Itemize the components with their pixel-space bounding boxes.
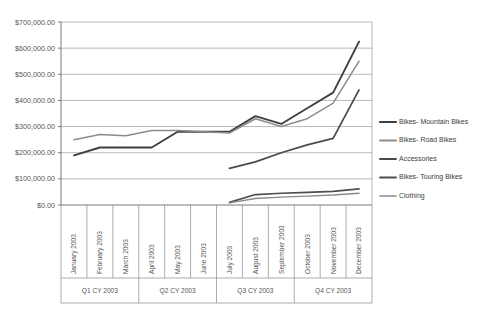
line-chart: $0.00$100,000.00$200,000.00$300,000.00$4… — [0, 0, 488, 313]
legend-label: Bikes- Touring Bikes — [399, 173, 463, 181]
x-axis-tick-label: July 2003 — [226, 245, 234, 274]
x-axis-tick-label: December 2003 — [355, 227, 362, 274]
series-line-bikes-mountain-bikes — [74, 42, 359, 156]
legend-label: Accessories — [399, 155, 437, 162]
gridlines — [61, 22, 372, 179]
quarter-label: Q2 CY 2003 — [160, 287, 197, 295]
chart-legend: Bikes- Mountain BikesBikes- Road BikesAc… — [380, 118, 469, 200]
y-axis-tick-label: $400,000.00 — [15, 96, 55, 105]
y-axis-tick-label: $500,000.00 — [15, 70, 55, 79]
series-line-bikes-touring-bikes — [229, 189, 359, 203]
quarter-label: Q3 CY 2003 — [237, 287, 274, 295]
series-line-accessories — [229, 90, 359, 168]
quarter-label: Q4 CY 2003 — [315, 287, 352, 295]
x-axis-tick-label: August 2003 — [252, 237, 260, 274]
y-axis-tick-label: $200,000.00 — [15, 148, 55, 157]
x-axis-tick-label: October 2003 — [304, 234, 311, 274]
axis-lines — [61, 22, 372, 303]
legend-label: Bikes- Mountain Bikes — [399, 118, 469, 125]
y-axis-tick-label: $0.00 — [37, 201, 55, 210]
y-axis-tick-label: $700,000.00 — [15, 18, 55, 27]
x-axis-tick-label: September 2003 — [278, 225, 286, 274]
y-axis-tick-label: $100,000.00 — [15, 174, 55, 183]
legend-label: Clothing — [399, 192, 425, 200]
y-axis-tick-labels: $0.00$100,000.00$200,000.00$300,000.00$4… — [15, 18, 61, 210]
x-axis-tick-label: April 2003 — [148, 244, 156, 274]
series-line-clothing — [229, 193, 359, 203]
chart-canvas: $0.00$100,000.00$200,000.00$300,000.00$4… — [0, 0, 488, 313]
y-axis-tick-label: $600,000.00 — [15, 44, 55, 53]
x-axis-tick-label: February 2003 — [96, 231, 104, 274]
x-axis-tick-label: November 2003 — [330, 227, 337, 274]
x-axis-tick-label: May 2003 — [174, 245, 182, 274]
x-axis-tick-label: March 2003 — [122, 239, 129, 274]
x-axis-tick-label: January 2003 — [70, 234, 78, 274]
quarter-label: Q1 CY 2003 — [82, 287, 119, 295]
x-axis-tick-label: June 2003 — [200, 243, 207, 274]
legend-label: Bikes- Road Bikes — [399, 136, 457, 143]
y-axis-tick-label: $300,000.00 — [15, 122, 55, 131]
